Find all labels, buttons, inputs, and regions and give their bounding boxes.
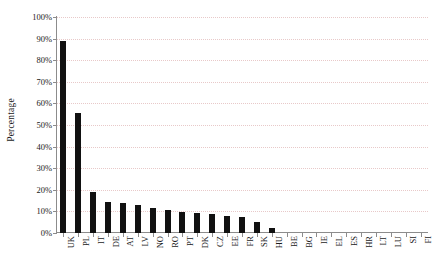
x-axis-tick-label: CZ bbox=[216, 236, 225, 247]
y-axis-tick-label: 40% bbox=[36, 142, 52, 151]
y-axis-tick-label: 10% bbox=[36, 207, 52, 216]
y-axis-tick-label: 80% bbox=[36, 56, 52, 65]
bar-chart: Percentage 100%90%80%70%60%50%40%30%20%1… bbox=[0, 0, 432, 271]
x-axis-tick-label: PT bbox=[186, 236, 195, 246]
bar bbox=[120, 203, 126, 233]
x-axis-tick-label: LU bbox=[394, 236, 403, 247]
x-axis-tick-label: HU bbox=[275, 236, 284, 248]
x-axis-tick-label: IT bbox=[97, 236, 106, 244]
plot-area bbox=[56, 17, 428, 233]
x-axis-tick-label: EL bbox=[335, 236, 344, 246]
x-axis-tick-labels: UKPLITDEATLVNOROPTDKCZEEFRSKHUBEBGIEELES… bbox=[56, 236, 428, 271]
y-axis-tick-label: 50% bbox=[36, 121, 52, 130]
bar bbox=[179, 212, 185, 233]
x-axis-tick-label: DE bbox=[112, 236, 121, 247]
x-axis-tick-label: BE bbox=[290, 236, 299, 247]
bar bbox=[60, 41, 66, 233]
x-axis-tick-label: PL bbox=[82, 236, 91, 246]
bar bbox=[150, 208, 156, 233]
x-axis-tick-label: SI bbox=[409, 236, 418, 244]
x-axis-tick-label: FI bbox=[424, 236, 432, 244]
y-axis-tick-label: 100% bbox=[32, 13, 52, 22]
bar bbox=[194, 213, 200, 233]
x-axis-tick-label: EE bbox=[231, 236, 240, 246]
bar bbox=[105, 202, 111, 233]
x-axis-tick-label: LV bbox=[141, 236, 150, 247]
x-axis-tick-label: DK bbox=[201, 236, 210, 248]
bars-group bbox=[56, 17, 428, 233]
y-axis-tick-label: 30% bbox=[36, 164, 52, 173]
y-axis-title: Percentage bbox=[0, 0, 22, 240]
x-axis-tick-label: IE bbox=[320, 236, 329, 244]
x-axis-tick-label: UK bbox=[67, 236, 76, 248]
bar bbox=[209, 214, 215, 233]
x-axis-tick-label: ES bbox=[350, 236, 359, 246]
x-axis-tick-label: SK bbox=[260, 236, 269, 247]
x-axis-tick-label: AT bbox=[126, 236, 135, 246]
x-axis-tick-label: BG bbox=[305, 236, 314, 248]
bar bbox=[239, 217, 245, 233]
bar bbox=[135, 205, 141, 233]
x-axis-tick-label: NO bbox=[156, 236, 165, 248]
bar bbox=[165, 210, 171, 233]
y-axis-tick-label: 90% bbox=[36, 34, 52, 43]
y-axis-tick-label: 0% bbox=[41, 229, 52, 238]
y-axis-tick-label: 20% bbox=[36, 186, 52, 195]
x-axis-tick-label: RO bbox=[171, 236, 180, 248]
y-axis-tick-label: 70% bbox=[36, 78, 52, 87]
y-axis-tick-label: 60% bbox=[36, 99, 52, 108]
bar bbox=[90, 192, 96, 233]
y-axis-tick-labels: 100%90%80%70%60%50%40%30%20%10%0% bbox=[20, 0, 56, 240]
y-axis-title-text: Percentage bbox=[6, 98, 16, 142]
bar bbox=[75, 113, 81, 233]
x-axis-tick-label: FR bbox=[246, 236, 255, 246]
x-axis-tick-label: LT bbox=[379, 236, 388, 246]
bar bbox=[224, 216, 230, 233]
bar bbox=[254, 222, 260, 233]
x-axis-tick-label: HR bbox=[365, 236, 374, 248]
